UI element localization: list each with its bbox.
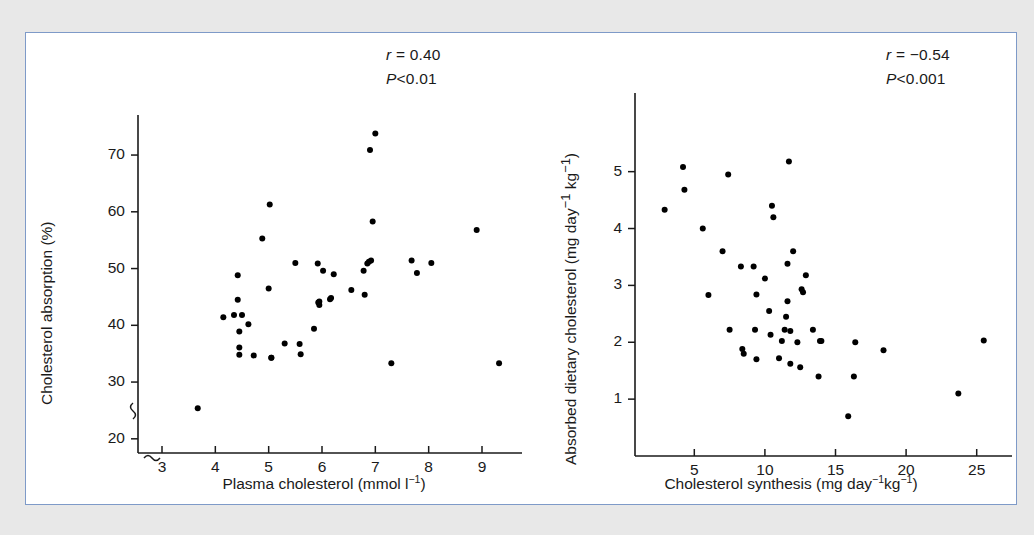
data-point [800, 289, 806, 295]
data-point [851, 373, 857, 379]
data-point [388, 360, 394, 366]
data-point [195, 405, 201, 411]
data-point [328, 295, 334, 301]
x-tick-label: 3 [142, 458, 182, 476]
y-tick-label: 5 [582, 162, 622, 180]
y-tick-label: 60 [85, 202, 125, 220]
data-point [267, 201, 273, 207]
data-point [320, 268, 326, 274]
stats-annotation-right: r = −0.54 P<0.001 [886, 43, 950, 91]
p-symbol: P [386, 70, 397, 87]
data-point [753, 356, 759, 362]
data-point [361, 268, 367, 274]
data-point [803, 272, 809, 278]
data-point [881, 347, 887, 353]
correlation-annotation: r = 0.40 [386, 43, 441, 67]
y-tick-label: 50 [85, 259, 125, 277]
data-point [496, 360, 502, 366]
data-points [662, 158, 987, 419]
y-tick-label: 2 [582, 332, 622, 350]
y-tick-label: 4 [582, 219, 622, 237]
x-axis-title-left-tail: ) [420, 475, 425, 492]
data-point [769, 203, 775, 209]
x-axis-title-left-text: Plasma cholesterol (mmol l [222, 475, 408, 492]
x-tick-label: 5 [674, 461, 714, 479]
data-point [259, 235, 265, 241]
x-axis-title-left: Plasma cholesterol (mmol l−1) [114, 473, 534, 493]
x-tick-label: 9 [462, 458, 502, 476]
y-axis-title-left: Cholesterol absorption (%) [38, 221, 56, 405]
y-axis-title-right: Absorbed dietary cholesterol (mg day−1 k… [558, 153, 580, 465]
y-axis-title-left-text: Cholesterol absorption (%) [38, 221, 55, 405]
x-axis-title-right-sup: −1 [872, 473, 884, 485]
data-point [297, 341, 303, 347]
data-point [268, 355, 274, 361]
data-point [720, 248, 726, 254]
x-tick-label: 20 [886, 461, 926, 479]
data-point [727, 327, 733, 333]
data-point [662, 207, 668, 213]
y-axis-break-mark [131, 403, 136, 419]
data-point [955, 390, 961, 396]
scatter-plot-right [546, 33, 1018, 506]
y-axis-title-right-tail: ) [562, 153, 579, 158]
y-axis-title-right-mid: kg [562, 173, 579, 194]
data-point [311, 326, 317, 332]
data-point [236, 344, 242, 350]
y-tick-label: 3 [582, 275, 622, 293]
r-value: 0.40 [410, 46, 441, 63]
data-point [251, 352, 257, 358]
data-point [753, 291, 759, 297]
x-tick-label: 5 [249, 458, 289, 476]
correlation-annotation: r = −0.54 [886, 43, 950, 67]
x-tick-label: 10 [745, 461, 785, 479]
data-points [195, 130, 502, 411]
y-axis-title-right-sup: −1 [558, 194, 573, 209]
x-tick-label: 15 [816, 461, 856, 479]
data-point [786, 158, 792, 164]
pvalue-annotation: P<0.01 [386, 67, 441, 91]
data-point [235, 272, 241, 278]
data-point [235, 297, 241, 303]
r-relation: = [391, 46, 409, 63]
data-point [779, 338, 785, 344]
p-value: 0.001 [906, 70, 946, 87]
data-point [368, 258, 374, 264]
scatter-panel-right: r = −0.54 P<0.001 Cholesterol synthesis … [546, 33, 1018, 506]
data-point [810, 327, 816, 333]
data-point [981, 338, 987, 344]
data-point [372, 130, 378, 136]
data-point [282, 340, 288, 346]
p-relation: < [897, 70, 906, 87]
data-point [776, 355, 782, 361]
data-point [741, 351, 747, 357]
data-point [474, 227, 480, 233]
data-point [784, 261, 790, 267]
data-point [370, 218, 376, 224]
data-point [752, 327, 758, 333]
figure-frame: r = 0.40 P<0.01 Plasma cholesterol (mmol… [25, 32, 1017, 505]
data-point [770, 214, 776, 220]
data-point [680, 164, 686, 170]
figure-page: r = 0.40 P<0.01 Plasma cholesterol (mmol… [0, 0, 1034, 535]
data-point [428, 260, 434, 266]
data-point [236, 352, 242, 358]
data-point [751, 264, 757, 270]
data-point [845, 413, 851, 419]
data-point [797, 364, 803, 370]
y-tick-label: 1 [582, 389, 622, 407]
data-point [331, 271, 337, 277]
scatter-panel-left: r = 0.40 P<0.01 Plasma cholesterol (mmol… [26, 33, 546, 506]
data-point [367, 147, 373, 153]
data-point [766, 308, 772, 314]
data-point [725, 172, 731, 178]
y-tick-label: 30 [85, 372, 125, 390]
data-point [315, 260, 321, 266]
data-point [236, 329, 242, 335]
data-point [816, 373, 822, 379]
x-tick-label: 4 [195, 458, 235, 476]
data-point [316, 302, 322, 308]
data-point [782, 327, 788, 333]
data-point [787, 361, 793, 367]
data-point [348, 287, 354, 293]
